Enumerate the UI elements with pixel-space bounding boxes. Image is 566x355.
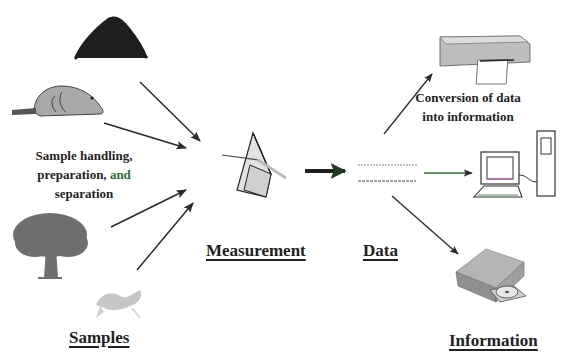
sample-handling-line3: separation [14,184,154,203]
disk-drive-icon [456,249,526,302]
and-text: and [107,167,131,182]
fish-icon [96,290,141,318]
printer-icon [440,36,530,84]
stage-label-information: Information [449,331,538,351]
arrow-data-to-disk [392,196,458,254]
computer-icon [474,131,555,197]
arrow-fish-to-measurement [137,203,193,270]
stage-label-measurement: Measurement [206,241,306,261]
sample-handling-line1: Sample handling, [14,146,154,165]
sample-handling-note: Sample handling, preparation, and separa… [14,146,154,203]
preparation-text: preparation, [37,167,106,182]
stage-label-data: Data [363,241,398,261]
stage-label-samples: Samples [69,328,129,348]
conversion-note: Conversion of data into information [406,88,530,126]
sample-handling-line2: preparation, and [14,165,154,184]
tree-icon [13,213,88,279]
soil-pile-icon [74,16,148,59]
conversion-line2: into information [406,107,530,126]
conversion-line1: Conversion of data [406,88,530,107]
data-signal-lines [358,165,418,181]
beaver-icon [12,86,103,116]
prism-icon [222,133,286,197]
arrow-soil-to-measurement [140,82,200,141]
arrow-beaver-to-measurement [104,123,186,148]
